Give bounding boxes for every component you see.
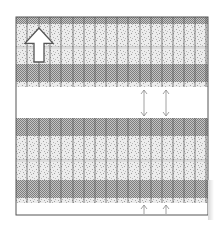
band-stipple (16, 49, 208, 64)
band-stipple (16, 162, 208, 180)
page-shadow-edge (208, 180, 214, 220)
band-checker (16, 64, 208, 82)
band-gap (16, 203, 208, 215)
band-gap (16, 87, 208, 118)
band-stipple (16, 198, 208, 203)
band-checker (16, 180, 208, 198)
bands-group (16, 17, 208, 215)
band-stipple (16, 82, 208, 87)
band-checker (16, 17, 208, 24)
band-stipple (16, 136, 208, 160)
band-checker (16, 118, 208, 136)
banded-grid-diagram (0, 0, 214, 236)
